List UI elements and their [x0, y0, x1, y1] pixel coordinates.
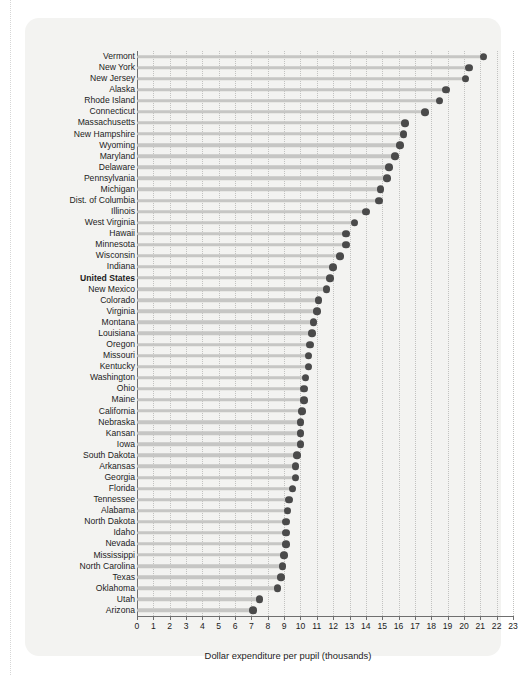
data-row	[137, 428, 513, 439]
data-point	[342, 230, 350, 238]
data-row	[137, 62, 513, 73]
row-stem	[137, 354, 309, 357]
row-stem	[137, 343, 310, 346]
data-point	[329, 263, 337, 271]
data-row	[137, 527, 513, 538]
data-row	[137, 350, 513, 361]
row-stem	[137, 99, 439, 102]
row-stem	[137, 221, 354, 224]
data-row	[137, 572, 513, 583]
category-label: Wyoming	[25, 140, 135, 151]
x-tick	[382, 616, 383, 620]
x-tick	[448, 616, 449, 620]
category-label: Georgia	[25, 472, 135, 483]
x-tick	[464, 616, 465, 620]
row-stem	[137, 177, 387, 180]
category-label: Missouri	[25, 350, 135, 361]
category-label: Massachusetts	[25, 117, 135, 128]
category-label: New Jersey	[25, 73, 135, 84]
row-stem	[137, 598, 260, 601]
category-label: Montana	[25, 317, 135, 328]
x-tick	[137, 616, 138, 620]
category-label: Alaska	[25, 84, 135, 95]
data-point	[282, 518, 290, 526]
row-stem	[137, 387, 304, 390]
data-point	[302, 374, 310, 382]
data-point	[282, 540, 290, 548]
data-point	[351, 219, 359, 227]
row-stem	[137, 454, 297, 457]
data-point	[300, 385, 308, 393]
data-row	[137, 550, 513, 561]
data-point	[282, 529, 290, 537]
category-label: New York	[25, 62, 135, 73]
row-stem	[137, 265, 333, 268]
category-label: South Dakota	[25, 450, 135, 461]
category-label: New Mexico	[25, 284, 135, 295]
category-label: Pennsylvania	[25, 173, 135, 184]
row-stem	[137, 143, 400, 146]
data-row	[137, 406, 513, 417]
category-label: West Virginia	[25, 217, 135, 228]
data-point	[396, 141, 404, 149]
category-label: Ohio	[25, 383, 135, 394]
data-row	[137, 605, 513, 616]
data-row	[137, 505, 513, 516]
category-label: Indiana	[25, 261, 135, 272]
data-row	[137, 173, 513, 184]
row-stem	[137, 443, 300, 446]
data-point	[297, 429, 305, 437]
row-stem	[137, 321, 314, 324]
category-label: New Hampshire	[25, 129, 135, 140]
data-row	[137, 561, 513, 572]
data-row	[137, 516, 513, 527]
row-stem	[137, 365, 309, 368]
data-row	[137, 195, 513, 206]
data-row	[137, 51, 513, 62]
row-stem	[137, 77, 466, 80]
x-tick	[268, 616, 269, 620]
category-label: Kansan	[25, 428, 135, 439]
row-stem	[137, 254, 340, 257]
category-label: Idaho	[25, 527, 135, 538]
data-point	[284, 507, 292, 515]
data-row	[137, 361, 513, 372]
category-label: Wisconsin	[25, 250, 135, 261]
category-label: Michigan	[25, 184, 135, 195]
x-tick	[431, 616, 432, 620]
x-tick	[251, 616, 252, 620]
data-point	[362, 208, 370, 216]
data-row	[137, 106, 513, 117]
data-row	[137, 583, 513, 594]
category-label: Hawaii	[25, 228, 135, 239]
data-point	[306, 341, 314, 349]
data-row	[137, 538, 513, 549]
data-point	[256, 596, 264, 604]
category-label: Minnesota	[25, 239, 135, 250]
chart-page: VermontNew YorkNew JerseyAlaskaRhode Isl…	[0, 0, 523, 675]
data-row	[137, 273, 513, 284]
row-stem	[137, 476, 296, 479]
data-row	[137, 295, 513, 306]
category-label: Tennessee	[25, 494, 135, 505]
row-stem	[137, 420, 300, 423]
category-label: Washington	[25, 372, 135, 383]
row-stem	[137, 609, 253, 612]
x-tick	[399, 616, 400, 620]
category-label: Dist. of Columbia	[25, 195, 135, 206]
data-point	[274, 584, 282, 592]
category-label: Colorado	[25, 295, 135, 306]
x-tick	[284, 616, 285, 620]
category-label: Alabama	[25, 505, 135, 516]
data-point	[480, 53, 488, 61]
row-stem	[137, 299, 318, 302]
data-point	[391, 152, 399, 160]
category-label: Maryland	[25, 151, 135, 162]
row-stem	[137, 110, 425, 113]
x-tick	[202, 616, 203, 620]
row-stem	[137, 465, 296, 468]
data-row	[137, 472, 513, 483]
row-stem	[137, 431, 300, 434]
data-point	[300, 396, 308, 404]
category-label: Louisiana	[25, 328, 135, 339]
